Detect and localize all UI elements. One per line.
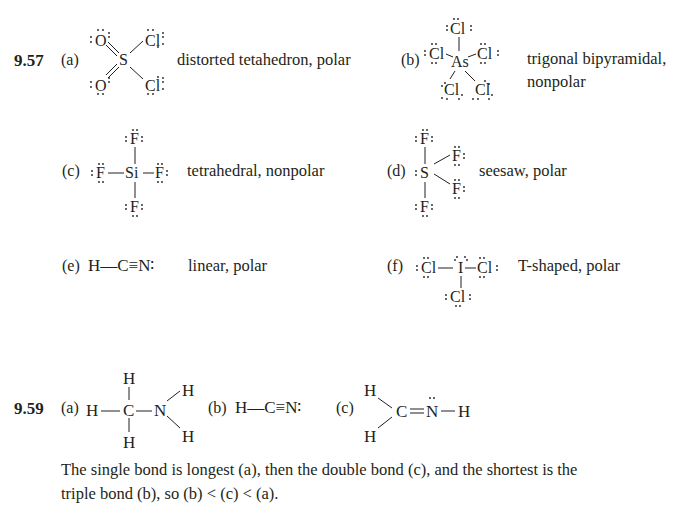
svg-text:F: F [420, 198, 429, 215]
part-label-e: (e) [62, 257, 80, 275]
svg-text:N: N [154, 401, 166, 420]
so2cl2-structure: O S O Cl Cl [85, 20, 185, 100]
ascl5-structure: Cl Cl As Cl Cl Cl [415, 15, 535, 105]
part-label-959-b: (b) [208, 399, 227, 417]
ch3nh2-structure: H C H H N H H [86, 370, 196, 450]
svg-text:N: N [426, 402, 438, 421]
part-label-959-c: (c) [336, 399, 354, 417]
atom-cl: Cl [145, 77, 161, 94]
atom-o: O [95, 77, 107, 94]
description-d: seesaw, polar [479, 160, 567, 182]
svg-text:S: S [420, 164, 429, 181]
svg-text:F: F [420, 130, 429, 147]
hcn-formula-e: H—C≡N∶ [88, 255, 154, 277]
description-b-line1: trigonal bipyramidal, [527, 48, 666, 70]
svg-text:Cl: Cl [450, 20, 466, 37]
problem-number-957: 9.57 [14, 51, 44, 71]
part-label-959-a: (a) [61, 399, 79, 417]
svg-text:H: H [123, 433, 135, 452]
svg-text:C: C [396, 402, 407, 421]
description-b-line2: nonpolar [527, 71, 586, 93]
explanation-line1: The single bond is longest (a), then the… [61, 458, 681, 481]
svg-text:Cl: Cl [477, 259, 493, 276]
svg-text:H: H [182, 381, 194, 400]
svg-text:H: H [123, 369, 135, 388]
ch2nh-structure: H H C N H [362, 370, 472, 450]
atom-o: O [95, 32, 107, 49]
svg-text:F: F [155, 164, 164, 181]
svg-text:As: As [451, 53, 469, 70]
description-e: linear, polar [188, 255, 267, 277]
sif4-structure: F F Si F F [88, 128, 178, 218]
svg-text:I: I [458, 259, 463, 276]
atom-s: S [119, 51, 128, 68]
svg-text:F: F [452, 147, 461, 164]
problem-number-959: 9.59 [14, 399, 44, 419]
svg-text:C: C [123, 401, 134, 420]
svg-text:F: F [130, 130, 139, 147]
svg-text:Cl: Cl [429, 45, 445, 62]
hcn-formula-959-b: H—C≡N∶ [235, 397, 301, 419]
svg-text:Si: Si [125, 164, 139, 181]
explanation-line2: triple bond (b), so (b) < (c) < (a). [61, 482, 681, 505]
svg-text:F: F [130, 198, 139, 215]
svg-text:H: H [364, 381, 376, 400]
svg-text:Cl: Cl [444, 81, 460, 98]
svg-text:H: H [364, 427, 376, 446]
svg-text:H: H [182, 427, 194, 446]
part-label-f: (f) [387, 257, 403, 275]
svg-text:Cl: Cl [450, 288, 466, 305]
part-label-c: (c) [62, 162, 80, 180]
icl3-structure: Cl I Cl Cl [413, 248, 518, 308]
description-f: T-shaped, polar [518, 255, 620, 277]
part-label-d: (d) [387, 162, 406, 180]
svg-text:Cl: Cl [477, 45, 493, 62]
part-label-a: (a) [61, 51, 79, 69]
description-c: tetrahedral, nonpolar [187, 160, 324, 182]
svg-text:Cl: Cl [421, 259, 437, 276]
svg-text:F: F [96, 164, 105, 181]
svg-text:F: F [452, 180, 461, 197]
svg-text:H: H [458, 402, 470, 421]
svg-text:H: H [86, 401, 98, 420]
description-a: distorted tetahedron, polar [177, 49, 351, 71]
